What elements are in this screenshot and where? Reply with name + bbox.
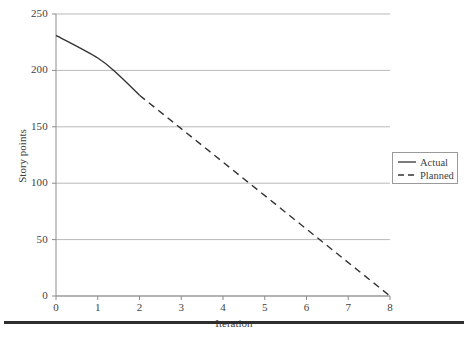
x-tick-label: 2 [130,301,150,313]
x-tick-label: 7 [338,301,358,313]
solid-line-icon [397,157,417,167]
x-tick-marks [56,296,390,300]
y-tick-label: 0 [14,289,48,301]
y-tick-label: 200 [14,63,48,75]
x-tick-label: 8 [380,301,400,313]
x-tick-label: 4 [213,301,233,313]
x-tick-label: 3 [171,301,191,313]
x-tick-label: 5 [255,301,275,313]
bottom-rule [4,321,464,324]
chart-legend: Actual Planned [392,152,458,184]
series-line-planned [140,95,391,296]
dashed-line-icon [397,170,417,180]
y-axis-title: Story points [16,106,28,206]
legend-label-planned: Planned [420,170,454,181]
series-line-actual [56,35,140,95]
y-tick-label: 250 [14,7,48,19]
y-tick-marks [52,14,56,296]
legend-item-planned: Planned [397,169,457,181]
legend-label-actual: Actual [420,157,448,168]
gridlines [56,14,390,296]
y-tick-label: 50 [14,233,48,245]
x-tick-label: 6 [297,301,317,313]
x-tick-label: 0 [46,301,66,313]
x-tick-label: 1 [88,301,108,313]
burndown-chart-figure: 050100150200250 012345678 Iteration Stor… [0,0,468,341]
legend-item-actual: Actual [397,156,457,168]
